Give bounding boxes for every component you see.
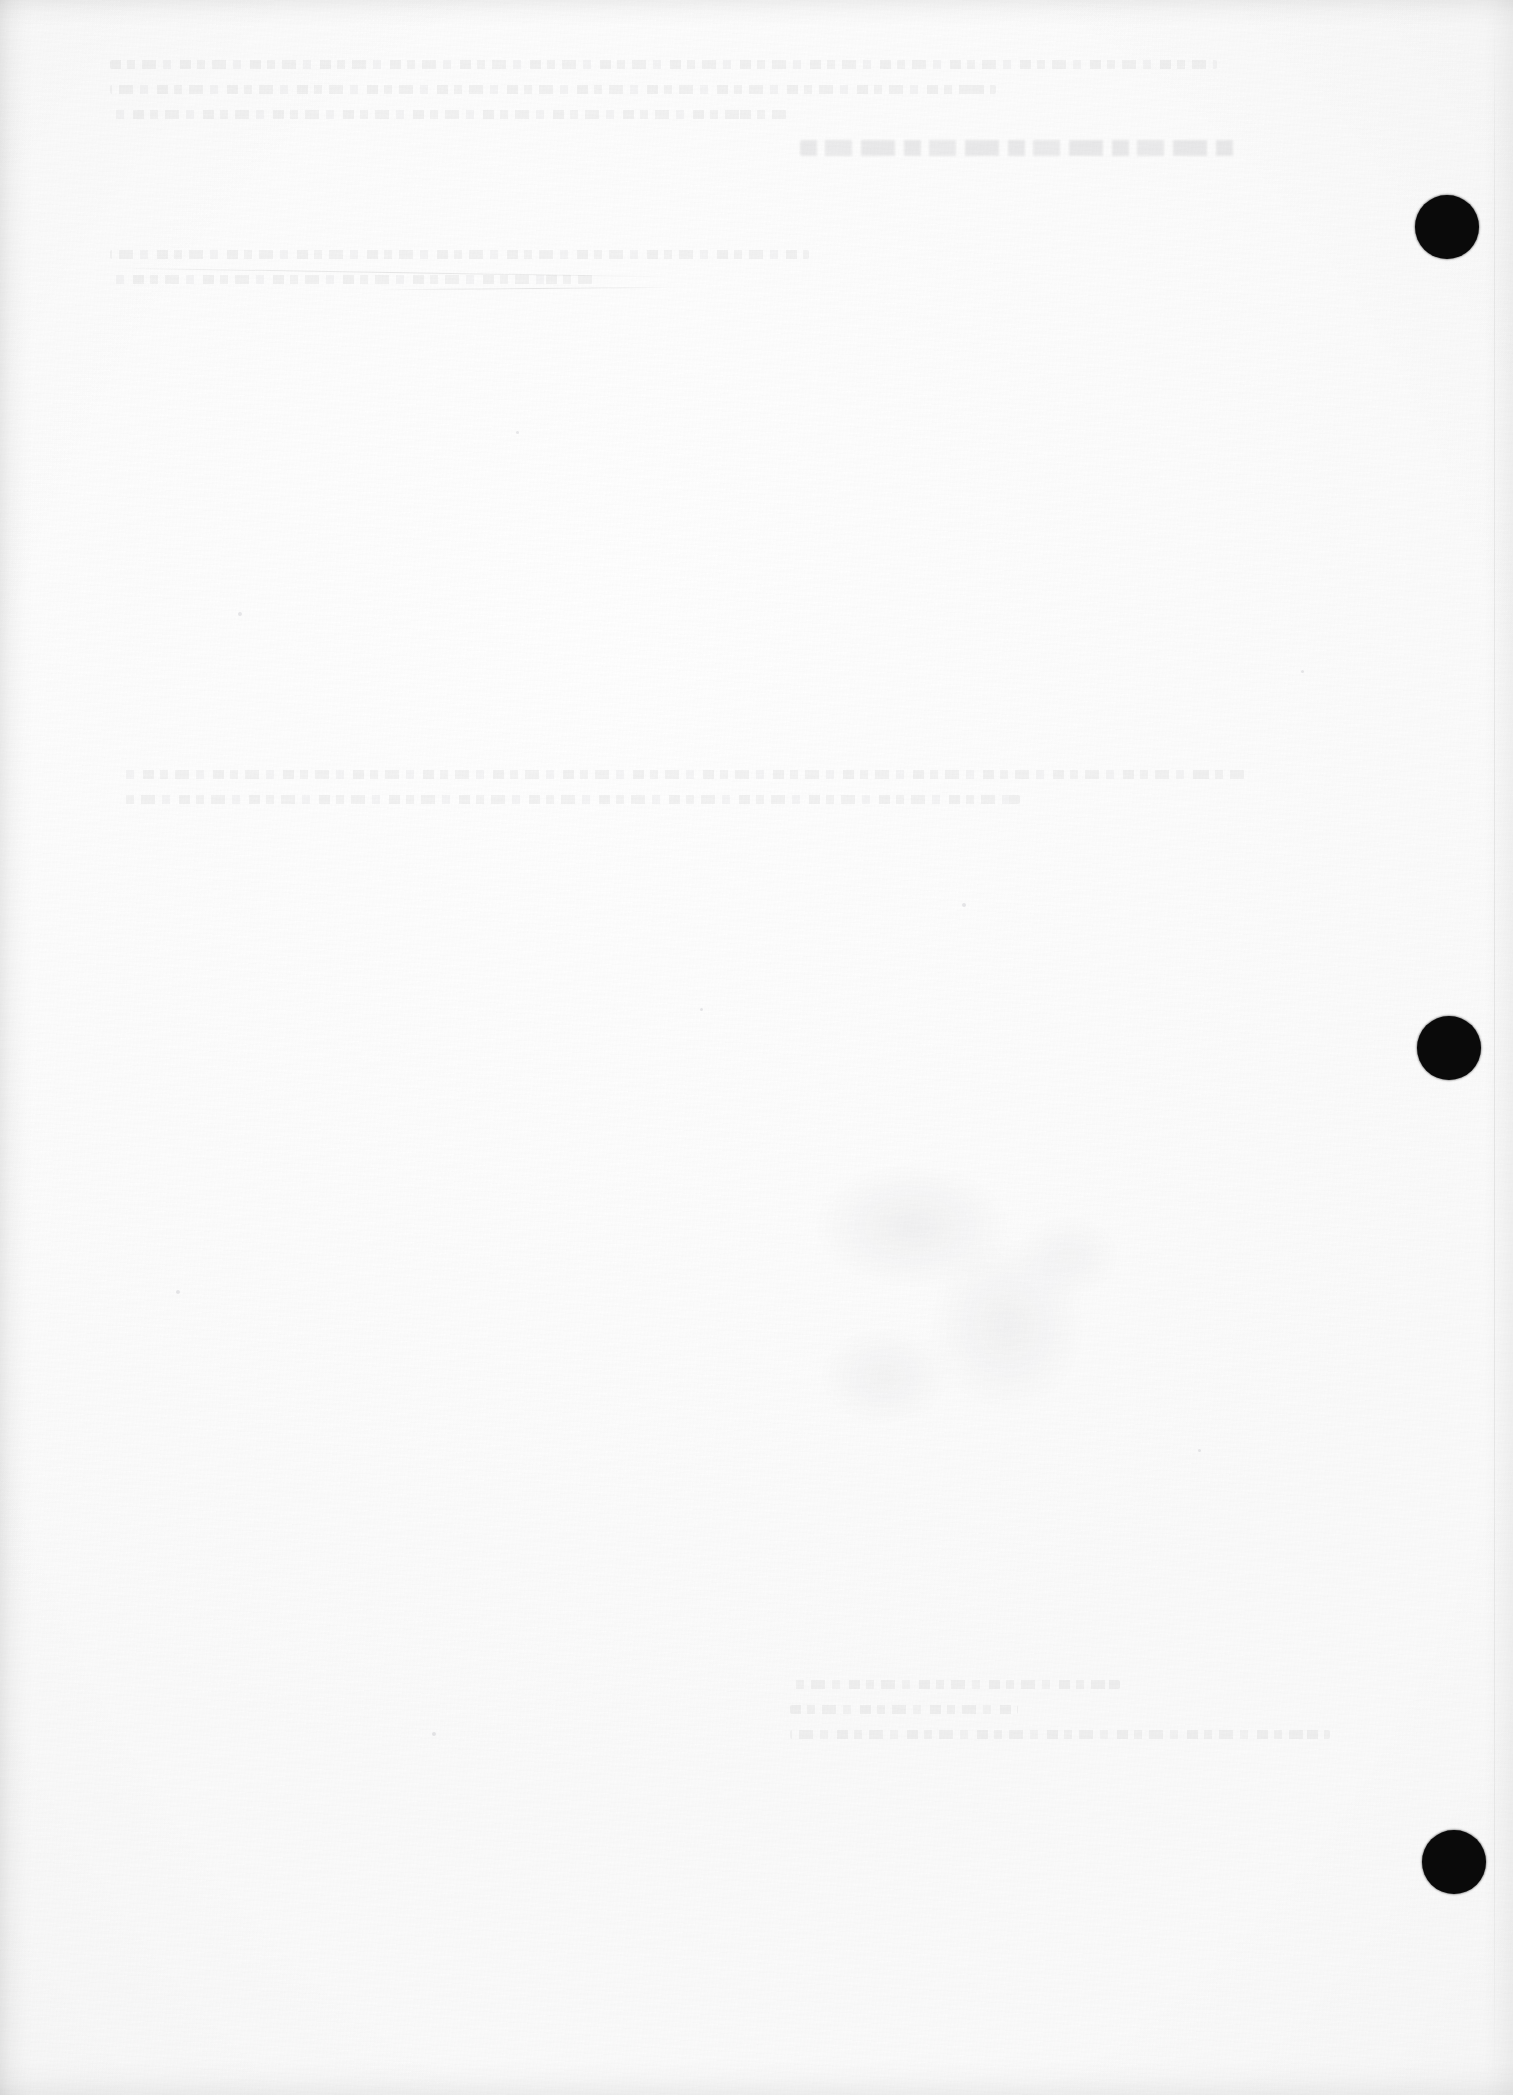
paper-grain-texture (0, 0, 1513, 2095)
scanned-page (0, 0, 1513, 2095)
margin-mark-1 (1415, 195, 1479, 259)
page-trim-line (1494, 0, 1495, 2095)
margin-mark-2 (1417, 1016, 1481, 1080)
margin-mark-3 (1422, 1830, 1486, 1894)
